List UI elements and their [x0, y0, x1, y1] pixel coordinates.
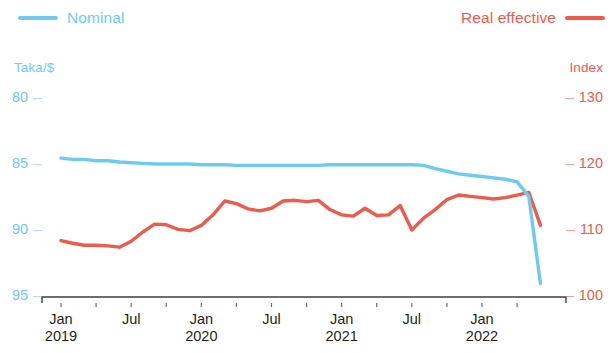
right-tick-dash — [565, 164, 574, 165]
right-tick-dash — [565, 296, 574, 297]
x-tick-month: Jul — [122, 311, 141, 327]
left-tick-label: 95 — [12, 287, 28, 303]
left-tick-label: 80 — [12, 89, 28, 105]
x-tick-4: Jan2021 — [326, 311, 358, 345]
x-tick-0: Jan2019 — [45, 311, 77, 345]
left-tick-85: 85 — [12, 155, 42, 171]
left-tick-dash — [33, 296, 42, 297]
x-tick-6: Jan2022 — [466, 311, 498, 345]
x-tick-1: Jul — [122, 311, 141, 328]
x-tick-year: 2019 — [45, 328, 77, 345]
x-tick-month: Jan — [49, 311, 72, 327]
right-tick-dash — [565, 98, 574, 99]
right-tick-label: 100 — [579, 287, 603, 303]
x-tick-month: Jul — [262, 311, 281, 327]
x-tick-year: 2021 — [326, 328, 358, 345]
x-tick-3: Jul — [262, 311, 281, 328]
right-tick-label: 120 — [579, 155, 603, 171]
x-tick-year: 2020 — [185, 328, 217, 345]
x-tick-2: Jan2020 — [185, 311, 217, 345]
right-tick-label: 110 — [580, 221, 603, 237]
right-tick-label: 130 — [579, 89, 603, 105]
right-tick-130: 130 — [565, 89, 603, 105]
left-tick-90: 90 — [12, 221, 42, 237]
right-tick-100: 100 — [565, 287, 603, 303]
x-tick-month: Jan — [330, 311, 353, 327]
left-tick-dash — [33, 164, 42, 165]
series-line-real-effective — [61, 192, 540, 247]
right-tick-dash — [566, 230, 575, 231]
left-tick-label: 90 — [12, 221, 28, 237]
x-tick-month: Jul — [403, 311, 422, 327]
right-tick-110: 110 — [566, 221, 603, 237]
x-tick-5: Jul — [403, 311, 422, 328]
left-tick-95: 95 — [12, 287, 42, 303]
x-tick-year: 2022 — [466, 328, 498, 345]
series-line-nominal — [61, 158, 540, 283]
left-tick-dash — [33, 230, 42, 231]
x-tick-month: Jan — [470, 311, 493, 327]
left-tick-80: 80 — [12, 89, 42, 105]
left-tick-label: 85 — [12, 155, 28, 171]
right-tick-120: 120 — [565, 155, 603, 171]
left-tick-dash — [33, 98, 42, 99]
x-tick-month: Jan — [190, 311, 213, 327]
axis-layer — [42, 297, 566, 307]
exchange-rate-chart: Nominal Real effective Taka/$ Index 8085… — [0, 0, 613, 353]
plot-area — [0, 0, 613, 353]
